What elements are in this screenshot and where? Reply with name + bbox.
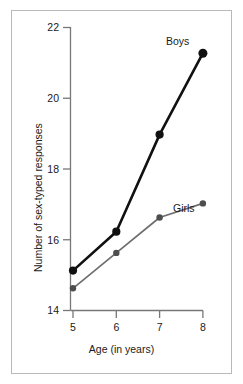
data-point xyxy=(156,131,164,139)
series-label-boys: Boys xyxy=(166,36,189,47)
data-point xyxy=(156,214,162,220)
data-point xyxy=(113,250,119,256)
y-axis-title: Number of sex-typed responses xyxy=(33,123,44,272)
series-label-girls: Girls xyxy=(173,203,195,214)
x-tick-label-6: 6 xyxy=(106,322,126,333)
x-axis-ticks xyxy=(73,311,203,319)
chart-figure: 14 16 18 20 22 5 6 7 8 Age (in years) Nu… xyxy=(0,0,243,384)
x-tick-label-8: 8 xyxy=(193,322,213,333)
series-girls-line xyxy=(73,203,203,288)
x-tick-label-7: 7 xyxy=(150,322,170,333)
data-point xyxy=(69,267,77,275)
y-tick-label-22: 22 xyxy=(37,22,59,33)
y-tick-label-20: 20 xyxy=(37,93,59,104)
data-point xyxy=(200,200,206,206)
series-boys xyxy=(69,49,208,275)
data-point xyxy=(198,49,207,58)
series-boys-line xyxy=(73,53,203,270)
y-tick-label-14: 14 xyxy=(37,305,59,316)
data-point xyxy=(112,228,120,236)
y-axis-ticks xyxy=(63,28,71,311)
data-point xyxy=(70,285,76,291)
x-tick-label-5: 5 xyxy=(63,322,83,333)
x-axis-title: Age (in years) xyxy=(0,344,243,355)
